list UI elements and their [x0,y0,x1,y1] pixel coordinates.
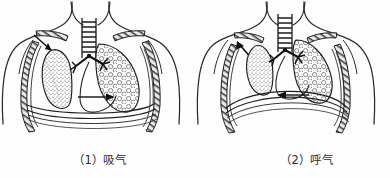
trachea [82,18,96,58]
rib-cage [21,31,160,132]
panel-inhalation: （1）吸气 [0,0,195,178]
trachea [278,14,292,52]
right-lung [293,40,332,103]
panel-caption-inhalation: （1）吸气 [0,152,197,168]
left-lung [42,50,72,109]
left-lung [247,45,273,95]
right-lung [96,44,139,112]
diaphragm [27,104,157,129]
panel-caption-exhalation: （2）呼气 [195,152,390,168]
panel-exhalation: （2）呼气 [195,0,390,178]
breathing-mechanics-figure: （1）吸气 [0,0,390,178]
